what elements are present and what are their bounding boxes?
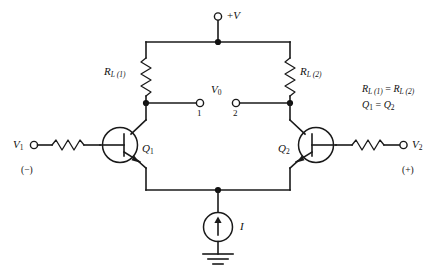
right-series-resistor-zigzag xyxy=(352,140,384,150)
left-resistor-subscript: L (1) xyxy=(111,70,126,79)
supply-junction-dot xyxy=(215,39,221,45)
output-v-symbol: V xyxy=(211,83,218,95)
circuit-diagram: +V RL (1) RL (2) V0 1 2 Q1 Q2 V1 (−) V2 … xyxy=(0,0,440,277)
ann-q2-symbol: Q xyxy=(384,99,391,110)
right-load-resistor-branch xyxy=(285,42,295,106)
input-v1-polarity: (−) xyxy=(21,166,33,176)
left-resistor-zigzag xyxy=(141,58,151,96)
input-v2-terminal-circle[interactable] xyxy=(400,141,407,148)
right-transistor-group xyxy=(290,103,336,190)
ann-eq-2: = xyxy=(375,99,381,110)
q2-symbol: Q xyxy=(278,142,286,154)
supply-branch xyxy=(146,13,290,45)
ann-q2-subscript: 2 xyxy=(391,103,395,112)
output-terminals-group xyxy=(146,99,290,106)
v1-subscript: 1 xyxy=(20,143,24,152)
supply-label: +V xyxy=(227,10,240,21)
output-terminal-2-label: 2 xyxy=(233,109,238,118)
right-resistor-symbol: R xyxy=(300,65,307,77)
q1-symbol: Q xyxy=(142,142,150,154)
input-v2-polarity: (+) xyxy=(402,166,414,176)
current-source-label: I xyxy=(240,221,244,232)
supply-v-symbol: V xyxy=(233,9,240,21)
ann-r2-subscript: L (2) xyxy=(400,87,415,96)
tail-current-branch xyxy=(146,187,290,264)
current-source-arrow-head xyxy=(214,217,221,224)
output-voltage-label: V0 xyxy=(211,84,221,97)
annotation-line-resistors: RL (1) = RL (2) xyxy=(362,82,414,98)
output-terminal-2-circle[interactable] xyxy=(232,99,239,106)
left-load-resistor-label: RL (1) xyxy=(104,66,125,79)
right-transistor-label: Q2 xyxy=(278,143,290,156)
output-terminal-1-circle[interactable] xyxy=(196,99,203,106)
q1-subscript: 1 xyxy=(150,147,154,156)
input-v2-label: V2 xyxy=(412,139,422,152)
left-transistor-group xyxy=(100,103,146,190)
right-resistor-subscript: L (2) xyxy=(307,70,322,79)
input-v1-label: V1 xyxy=(13,139,23,152)
ann-eq-1: = xyxy=(385,83,391,94)
left-series-resistor-zigzag xyxy=(52,140,84,150)
left-load-resistor-branch xyxy=(141,42,151,106)
annotation-line-transistors: Q1 = Q2 xyxy=(362,98,414,114)
input-v1-terminal-circle[interactable] xyxy=(30,141,37,148)
ann-q1-subscript: 1 xyxy=(369,103,373,112)
circuit-schematic-svg xyxy=(0,0,440,277)
right-emitter-extension xyxy=(290,161,298,168)
v1-symbol: V xyxy=(13,138,20,150)
right-load-resistor-label: RL (2) xyxy=(300,66,321,79)
output-v-subscript: 0 xyxy=(218,88,222,97)
q2-subscript: 2 xyxy=(286,147,290,156)
left-transistor-label: Q1 xyxy=(142,143,154,156)
left-collector-lead xyxy=(131,120,146,134)
output-terminal-1-label: 1 xyxy=(197,109,202,118)
supply-terminal-circle[interactable] xyxy=(214,13,221,20)
equality-annotations: RL (1) = RL (2) Q1 = Q2 xyxy=(362,82,414,114)
right-resistor-zigzag xyxy=(285,58,295,96)
left-input-branch xyxy=(30,140,100,150)
ann-r1-subscript: L (1) xyxy=(368,87,383,96)
left-resistor-symbol: R xyxy=(104,65,111,77)
v2-subscript: 2 xyxy=(419,143,423,152)
right-collector-lead xyxy=(290,120,305,134)
right-input-branch xyxy=(336,140,407,150)
left-emitter-extension xyxy=(138,161,146,168)
v2-symbol: V xyxy=(412,138,419,150)
